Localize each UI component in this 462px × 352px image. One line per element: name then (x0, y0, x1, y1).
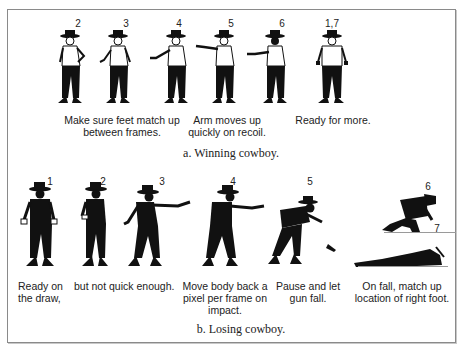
caption-move-body-back: Move body back a pixel per frame on impa… (175, 280, 275, 316)
losing-cowboy-frame-3-illustration (120, 182, 192, 268)
caption-arm-recoil: Arm moves up quickly on recoil. (182, 114, 272, 138)
subtitle-losing-cowboy: b. Losing cowboy. (197, 322, 286, 337)
caption-pause-gun-fall: Pause and let gun fall. (268, 280, 348, 304)
frame-number: 1,7 (325, 18, 339, 29)
cowboy-frame-5-illustration (196, 30, 244, 110)
losing-cowboy-frame-1-illustration (18, 182, 58, 268)
losing-cowboy-frame-6-illustration (380, 190, 440, 236)
frame-number: 3 (123, 18, 129, 29)
losing-cowboy-frame-4-illustration (200, 182, 266, 268)
caption-not-quick-enough: but not quick enough. (74, 280, 184, 292)
cowboy-frame-4-illustration (150, 30, 194, 110)
frame-number: 5 (228, 18, 234, 29)
frame-number: 6 (279, 18, 285, 29)
ground-line-frame-6 (384, 232, 456, 233)
caption-match-right-foot: On fall, match up location of right foot… (352, 280, 452, 304)
falling-gun-icon (326, 244, 336, 252)
cowboy-frame-6-illustration (247, 30, 295, 110)
losing-cowboy-frame-2-illustration (74, 182, 114, 268)
ground-line-frame-7 (358, 266, 448, 267)
cowboy-frame-1-7-illustration (312, 30, 356, 110)
subtitle-winning-cowboy: a. Winning cowboy. (183, 146, 279, 161)
caption-ready-for-more: Ready for more. (293, 114, 373, 126)
frame-number: 4 (176, 18, 182, 29)
caption-ready-on-draw: Ready on the draw, (18, 280, 78, 304)
frame-number: 2 (75, 18, 81, 29)
frame-number: 5 (307, 176, 313, 187)
caption-feet-match: Make sure feet match up between frames. (62, 114, 182, 138)
cowboy-frame-2-illustration (52, 30, 92, 110)
cowboy-frame-3-illustration (100, 30, 140, 110)
losing-cowboy-frame-5-illustration (266, 196, 338, 268)
